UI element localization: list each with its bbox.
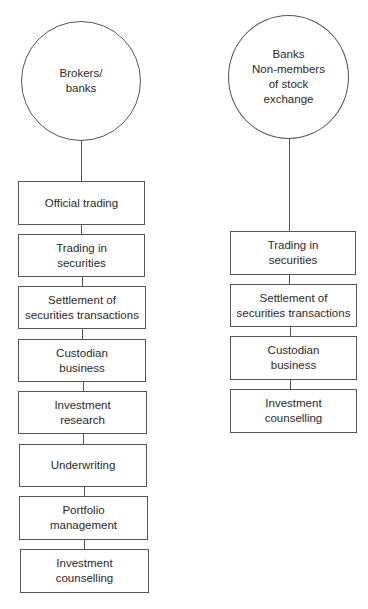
item-label: Underwriting [51, 458, 116, 473]
right-item-investment-counselling: Investment counselling [230, 389, 357, 433]
left-item-trading-in-securities: Trading in securities [18, 234, 145, 277]
left-item-underwriting: Underwriting [19, 444, 147, 487]
item-label: Official trading [45, 196, 118, 211]
right-item-settlement: Settlement of securities transactions [230, 284, 357, 327]
item-label: Settlement of securities transactions [25, 293, 139, 323]
item-label: Investment counselling [56, 556, 114, 586]
brokers-banks-label: Brokers/ banks [60, 66, 103, 96]
banks-non-members-node: Banks Non-members of stock exchange [228, 15, 349, 139]
item-label: Custodian business [268, 343, 320, 373]
connector-line [289, 138, 290, 232]
left-item-custodian-business: Custodian business [18, 339, 146, 382]
item-label: Portfolio management [50, 503, 117, 533]
brokers-banks-node: Brokers/ banks [21, 21, 141, 141]
left-item-portfolio-management: Portfolio management [19, 496, 148, 540]
left-item-official-trading: Official trading [18, 181, 145, 225]
left-item-investment-counselling: Investment counselling [20, 549, 149, 593]
left-item-investment-research: Investment research [18, 391, 147, 434]
item-label: Settlement of securities transactions [237, 291, 351, 321]
banks-non-members-label: Banks Non-members of stock exchange [252, 47, 325, 107]
right-item-custodian-business: Custodian business [230, 336, 357, 380]
item-label: Trading in securities [268, 238, 319, 268]
item-label: Custodian business [56, 346, 108, 376]
item-label: Investment research [54, 398, 110, 428]
left-item-settlement: Settlement of securities transactions [18, 286, 146, 329]
connector-line [81, 140, 82, 182]
item-label: Investment counselling [265, 396, 323, 426]
item-label: Trading in securities [56, 241, 107, 271]
right-item-trading-in-securities: Trading in securities [230, 231, 356, 275]
